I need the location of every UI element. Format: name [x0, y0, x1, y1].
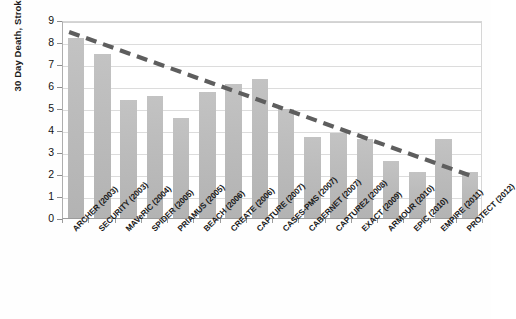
y-axis-tick-label: 2 — [14, 169, 54, 180]
gridline — [63, 44, 481, 45]
y-axis-tick-label: 6 — [14, 81, 54, 92]
y-axis-tick-label: 7 — [14, 59, 54, 70]
y-axis-tick-label: 9 — [14, 15, 54, 26]
y-axis-tick-label: 8 — [14, 37, 54, 48]
gridline — [63, 88, 481, 89]
bar — [68, 38, 85, 218]
y-axis-tick-labels: 0123456789 — [0, 0, 58, 240]
y-axis-tick-label: 5 — [14, 103, 54, 114]
y-axis-tick-label: 3 — [14, 147, 54, 158]
gridline — [63, 22, 481, 23]
y-axis-tick-label: 0 — [14, 213, 54, 224]
gridline — [63, 66, 481, 67]
y-axis-tick-label: 4 — [14, 125, 54, 136]
y-axis-tick-label: 1 — [14, 191, 54, 202]
x-axis-tick — [62, 219, 63, 223]
